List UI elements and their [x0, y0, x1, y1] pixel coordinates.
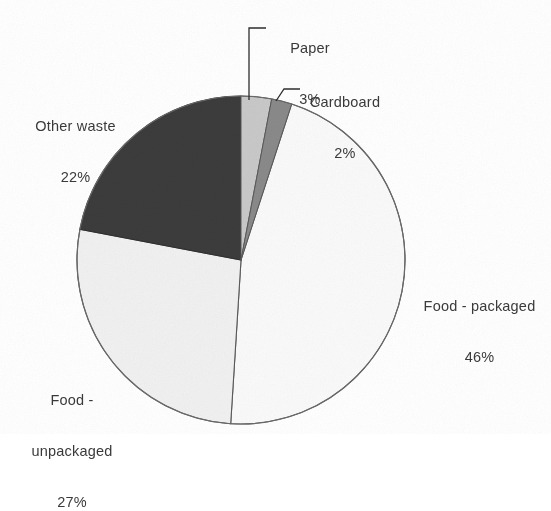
- slice-label-cardboard-name: Cardboard: [280, 94, 410, 111]
- slice-label-other-waste-percent: 22%: [8, 169, 143, 186]
- slice-label-food-unpackaged-line2: unpackaged: [2, 443, 142, 460]
- slice-label-food-packaged-percent: 46%: [408, 349, 551, 366]
- slice-label-cardboard: Cardboard 2%: [280, 60, 410, 196]
- slice-label-food-packaged: Food - packaged 46%: [408, 264, 551, 400]
- slice-label-paper-name: Paper: [255, 40, 365, 57]
- slice-label-other-waste: Other waste 22%: [8, 84, 143, 220]
- slice-label-food-packaged-name: Food - packaged: [408, 298, 551, 315]
- slice-label-cardboard-percent: 2%: [280, 145, 410, 162]
- slice-label-food-unpackaged-line1: Food -: [2, 392, 142, 409]
- slice-label-food-unpackaged-percent: 27%: [2, 494, 142, 511]
- slice-label-other-waste-name: Other waste: [8, 118, 143, 135]
- slice-label-food-unpackaged: Food - unpackaged 27%: [2, 358, 142, 511]
